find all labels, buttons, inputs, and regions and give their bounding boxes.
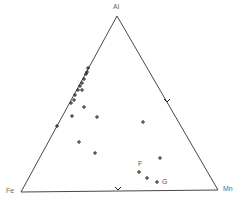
data-points [55,66,162,184]
data-point-plus-marker [69,101,73,105]
data-point-plus-marker [78,84,82,88]
data-point-plus-marker [70,114,74,118]
vertex-label-fe: Fe [6,187,14,194]
data-point-plus-marker [77,140,81,144]
point-label-f: F [138,160,142,167]
data-point-plus-marker [158,156,162,160]
data-point-plus-marker [72,98,76,102]
data-point-plus-marker [82,105,86,109]
vertex-label-mn: Mn [223,185,233,192]
edge-tick-icon [115,187,121,190]
data-point-plus-marker [95,115,99,119]
data-point-plus-marker [76,88,80,92]
ternary-diagram [0,0,239,199]
data-point-plus-marker [80,81,84,85]
data-point-plus-marker [145,176,149,180]
data-point-plus-marker [82,77,86,81]
edge-tick-icon [164,99,170,102]
ternary-triangle [21,16,218,192]
point-label-g: G [162,178,167,185]
data-point-plus-marker [55,124,59,128]
data-point-plus-marker [141,120,145,124]
vertex-label-al: Al [113,3,119,10]
edge-tick-marks [115,99,170,190]
data-point-plus-marker [155,180,159,184]
data-point-plus-marker [80,88,84,92]
data-point-plus-marker [137,170,141,174]
data-point-plus-marker [93,151,97,155]
